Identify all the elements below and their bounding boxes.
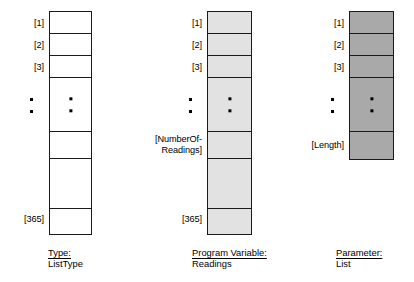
array-cell [208,56,251,78]
caption-value: List [336,258,382,269]
index-label-365: [365] [2,214,44,225]
array-cell [50,132,91,159]
dot-icon [69,109,72,112]
dot-icon [331,98,334,101]
array-cell [208,12,251,34]
index-label-3: [3] [306,62,344,73]
dot-icon [228,97,231,100]
side-ellipsis-dots-icon [189,98,192,113]
program-variable-caption: Program Variable: Readings [192,247,267,270]
caption-title: Type: [48,247,83,258]
caption-value: ListType [48,258,83,269]
array-cell-ellipsis [208,78,251,132]
array-cell [50,209,91,235]
index-label-3: [3] [6,62,44,73]
dot-icon [331,110,334,113]
array-cell-ellipsis [350,78,393,132]
ellipsis-dots-icon [69,97,72,112]
ellipsis-dots-icon [228,97,231,112]
array-cell [50,12,91,34]
array-cell [350,132,393,161]
index-label-number-of-readings: [NumberOf- Readings] [142,134,202,155]
caption-title: Parameter: [336,247,382,258]
array-cell [208,209,251,235]
array-cell [350,34,393,56]
array-cell [350,12,393,34]
index-label-length: [Length] [296,140,344,151]
array-cell [208,159,251,209]
parameter-caption: Parameter: List [336,247,382,270]
array-cell [50,159,91,209]
parameter-array-box [349,11,394,160]
dot-icon [30,98,33,101]
dot-icon [189,98,192,101]
index-label-365: [365] [160,214,202,225]
array-cell [50,34,91,56]
dot-icon [189,110,192,113]
dot-icon [69,97,72,100]
index-label-2: [2] [164,40,202,51]
index-label-1: [1] [306,18,344,29]
array-diagram: [1] [2] [3] [365] Type: ListType [0,0,414,282]
index-label-1: [1] [6,18,44,29]
side-ellipsis-dots-icon [30,98,33,113]
dot-icon [30,110,33,113]
array-cell [208,34,251,56]
index-label-1: [1] [164,18,202,29]
side-ellipsis-dots-icon [331,98,334,113]
caption-value: Readings [192,258,267,269]
array-cell [350,56,393,78]
program-variable-array-box [207,11,252,235]
type-array-box [49,11,92,235]
index-label-2: [2] [306,40,344,51]
index-label-3: [3] [164,62,202,73]
ellipsis-dots-icon [370,97,373,112]
type-caption: Type: ListType [48,247,83,270]
dot-icon [370,109,373,112]
index-label-2: [2] [6,40,44,51]
array-cell-ellipsis [50,78,91,132]
array-cell [50,56,91,78]
caption-title: Program Variable: [192,247,267,258]
array-cell [208,132,251,159]
dot-icon [370,97,373,100]
dot-icon [228,109,231,112]
